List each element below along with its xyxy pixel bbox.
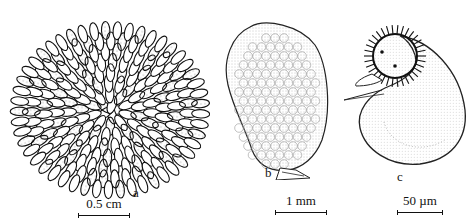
panel-a: a 0.5 cm	[0, 0, 210, 218]
panel-b: b 1 mm	[210, 0, 330, 218]
scale-bar-line	[397, 212, 443, 213]
panel-label-b: b	[265, 166, 272, 179]
cell-illustration	[320, 0, 476, 180]
sac-colony-illustration	[210, 0, 330, 180]
panel-c: c 50 µm	[320, 0, 476, 218]
scale-bar-line	[78, 215, 130, 216]
scale-bar-label: 0.5 cm	[78, 196, 130, 212]
panel-label-c: c	[397, 170, 403, 183]
colony-illustration	[0, 10, 210, 200]
panel-label-a: a	[133, 186, 139, 199]
scale-bar-label: 50 µm	[397, 193, 443, 209]
